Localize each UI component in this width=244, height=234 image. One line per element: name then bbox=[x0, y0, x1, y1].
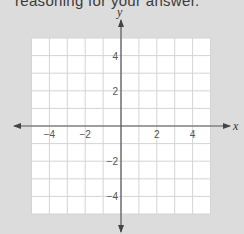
y-tick-label: −2 bbox=[107, 156, 119, 167]
x-tick-label: 4 bbox=[190, 129, 196, 140]
x-axis-label: x bbox=[232, 119, 239, 133]
y-tick-label: −4 bbox=[107, 191, 119, 202]
x-tick-label: 2 bbox=[154, 129, 160, 140]
coordinate-plane: x y −4−224 42−2−4 bbox=[0, 0, 244, 234]
y-tick-label: 2 bbox=[112, 86, 118, 97]
x-tick-label: −2 bbox=[79, 129, 91, 140]
y-tick-label: 4 bbox=[112, 51, 118, 62]
y-axis-label: y bbox=[116, 5, 123, 19]
x-tick-label: −4 bbox=[44, 129, 56, 140]
